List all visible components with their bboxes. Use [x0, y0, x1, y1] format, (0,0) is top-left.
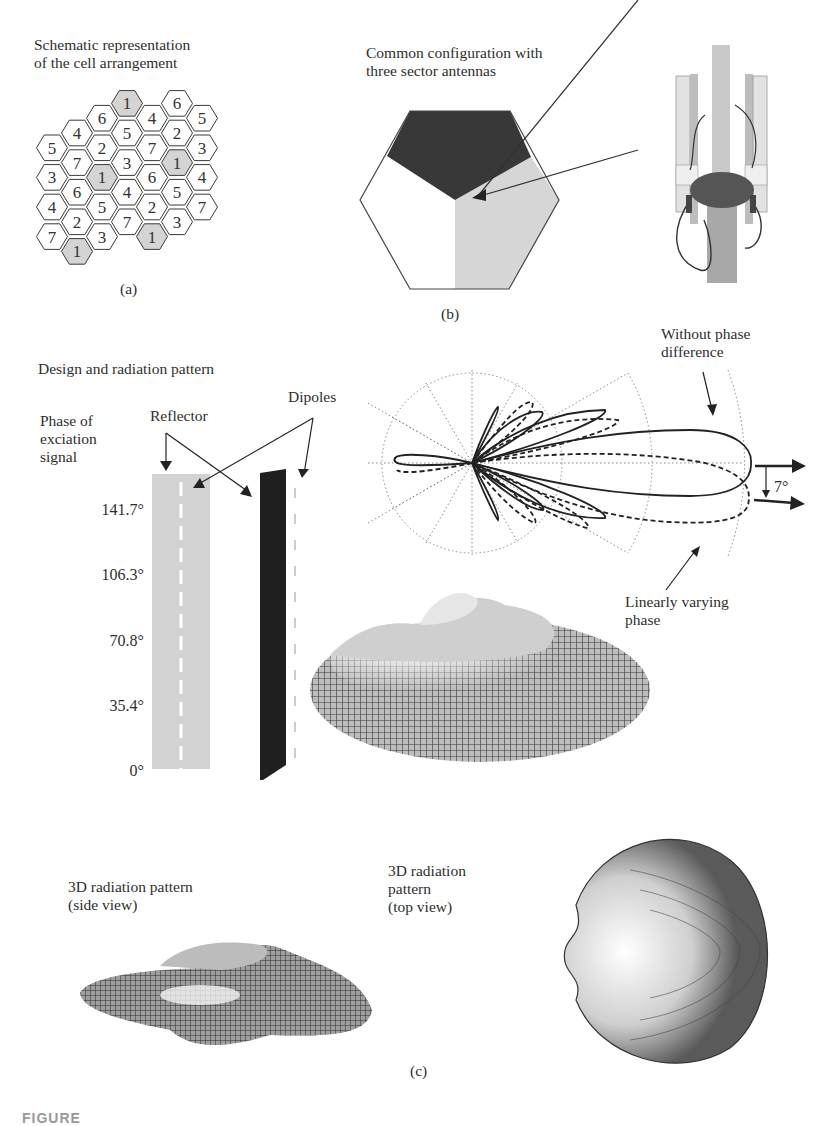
hex-cell-number: 5 — [48, 139, 57, 158]
hex-cell-number: 3 — [198, 139, 207, 158]
hex-cell — [62, 120, 93, 146]
phase-value: 141.7° — [64, 501, 144, 519]
hex-cell — [187, 105, 218, 131]
hex-cell-number: 7 — [48, 228, 57, 247]
hex-cell-number: 5 — [98, 198, 107, 217]
arrow-head-icon — [707, 404, 717, 416]
hex-cell-number: 7 — [73, 154, 82, 173]
hex-cell-number: 4 — [73, 124, 82, 143]
hex-cell-number: 1 — [73, 242, 82, 261]
hex-cell — [37, 165, 68, 191]
sector-light — [455, 157, 559, 289]
hex-cell — [137, 165, 168, 191]
hex-cell-number: 5 — [198, 109, 207, 128]
reflector-label: Reflector — [150, 407, 208, 425]
hex-cell — [37, 224, 68, 250]
arrow-head-icon — [298, 469, 309, 478]
hex-cell-number: 1 — [173, 154, 182, 173]
hex-cell — [187, 165, 218, 191]
hex-cell-number: 2 — [148, 198, 157, 217]
hex-cell-number: 1 — [123, 94, 132, 113]
tilt-angle-label: 7° — [774, 478, 788, 496]
phase-value: 0° — [64, 762, 144, 780]
section-title: Design and radiation pattern — [38, 360, 214, 378]
hex-cell — [162, 91, 193, 117]
hex-cell — [162, 209, 193, 235]
panel-b-label: (b) — [441, 305, 459, 323]
sector-dark — [387, 111, 531, 200]
phase-of-excitation-label: Phase of exciation signal — [40, 412, 97, 466]
tilted-beam-arrow-icon — [790, 496, 805, 510]
arrow-head-icon — [240, 485, 252, 497]
hex-cell — [112, 91, 143, 117]
hex-cell-number: 6 — [73, 183, 82, 202]
panel-c-label: (c) — [410, 1062, 427, 1080]
linearly-varying-phase-label: Linearly varying phase — [625, 593, 729, 629]
tilt-arrow-icon — [762, 490, 770, 498]
hex-cell-number: 5 — [123, 124, 132, 143]
hexagon-outline — [360, 111, 559, 289]
top-view-label: 3D radiation pattern (top view) — [388, 862, 466, 916]
arrow-head-icon — [472, 189, 486, 201]
hex-cell-number: 6 — [148, 168, 157, 187]
hex-cell-number: 3 — [48, 168, 57, 187]
hex-cell-number: 2 — [98, 139, 107, 158]
hex-cell-number: 5 — [173, 183, 182, 202]
hex-cell — [62, 150, 93, 176]
hex-cell — [62, 239, 93, 265]
main-lobe-solid — [472, 430, 751, 496]
hex-cell — [62, 179, 93, 205]
without-phase-difference-label: Without phase difference — [661, 325, 750, 361]
hex-cell — [187, 135, 218, 161]
hex-cell — [87, 224, 118, 250]
hex-cell — [37, 135, 68, 161]
hex-cell-number: 7 — [198, 198, 207, 217]
side-view-label: 3D radiation pattern (side view) — [68, 878, 193, 914]
figure-caption-fragment: FIGURE — [22, 1110, 81, 1126]
reflector-strip — [152, 474, 210, 769]
hex-cell — [62, 209, 93, 235]
hex-cell-number: 2 — [173, 124, 182, 143]
panel-a-title: Schematic representation of the cell arr… — [34, 36, 190, 72]
panel-b-title: Common configuration with three sector a… — [366, 44, 543, 80]
main-beam-arrow-icon — [792, 459, 806, 473]
hex-cell — [137, 224, 168, 250]
hex-cell-number: 4 — [48, 198, 57, 217]
hex-cell-number: 3 — [123, 154, 132, 173]
arrow-head-icon — [691, 546, 700, 557]
hex-cell-number: 3 — [173, 213, 182, 232]
panel-a-label: (a) — [120, 280, 137, 298]
phase-value: 35.4° — [64, 697, 144, 715]
arrow-head-icon — [193, 478, 205, 488]
hex-cell-number: 4 — [148, 109, 157, 128]
hex-cell — [137, 194, 168, 220]
dipoles-label: Dipoles — [288, 388, 336, 406]
hex-cell — [112, 209, 143, 235]
hex-cell — [137, 135, 168, 161]
hex-cell — [87, 194, 118, 220]
phase-value: 106.3° — [64, 566, 144, 584]
hex-cell — [162, 120, 193, 146]
hex-cell — [112, 150, 143, 176]
phase-value: 70.8° — [64, 632, 144, 650]
hex-cell-number: 7 — [123, 213, 132, 232]
hex-cell — [162, 150, 193, 176]
hex-cell-number: 2 — [73, 213, 82, 232]
hex-cell-number: 4 — [198, 168, 207, 187]
hex-cell-number: 3 — [98, 228, 107, 247]
arrow-head-icon — [160, 461, 172, 471]
hex-cell — [187, 194, 218, 220]
hex-cell-number: 6 — [173, 94, 182, 113]
hex-cell-number: 7 — [148, 139, 157, 158]
hex-cell-number: 6 — [98, 109, 107, 128]
hex-cell — [37, 194, 68, 220]
hex-cell — [87, 105, 118, 131]
reflector-side — [260, 469, 286, 780]
